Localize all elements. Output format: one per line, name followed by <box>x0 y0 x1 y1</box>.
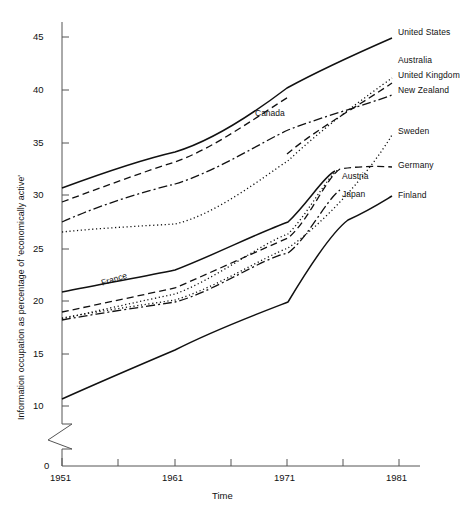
series-label-japan: Japan <box>342 189 365 199</box>
y-tick-label-10: 10 <box>33 400 44 411</box>
y-axis-break-zigzag <box>48 424 72 466</box>
y-tick-label-25: 25 <box>33 243 44 254</box>
series-line-united-kingdom <box>287 83 392 154</box>
plot-area <box>0 0 467 516</box>
y-tick-label-20: 20 <box>33 295 44 306</box>
y-tick-label-45: 45 <box>33 31 44 42</box>
y-tick-label-35: 35 <box>33 137 44 148</box>
series-line-united-states <box>62 38 392 188</box>
series-label-finland: Finland <box>398 190 427 200</box>
series-label-austria: Austria <box>342 171 368 181</box>
y-tick-label-30: 30 <box>33 189 44 200</box>
x-tick-label-1971: 1971 <box>274 472 295 483</box>
y-tick-label-15: 15 <box>33 348 44 359</box>
series-label-united-kingdom: United Kingdom <box>398 70 460 80</box>
x-tick-label-1951: 1951 <box>50 472 71 483</box>
line-chart: Information occupation as percentage of … <box>0 0 467 516</box>
y-tick-label-40: 40 <box>33 84 44 95</box>
series-label-united-states: United States <box>398 27 450 37</box>
x-axis-title: Time <box>212 490 233 501</box>
series-label-sweden: Sweden <box>398 126 429 136</box>
series-line-australia <box>62 78 392 232</box>
y-tick-label-0: 0 <box>44 460 49 471</box>
y-axis-title: Information occupation as percentage of … <box>16 175 26 420</box>
series-label-australia: Australia <box>398 55 432 65</box>
series-label-canada: Canada <box>255 108 285 118</box>
series-label-new-zealand: New Zealand <box>398 85 449 95</box>
series-lines <box>62 38 392 399</box>
x-tick-label-1961: 1961 <box>162 472 183 483</box>
x-tick-label-1981: 1981 <box>386 472 407 483</box>
series-line-finland <box>62 196 392 399</box>
series-label-germany: Germany <box>398 160 434 170</box>
axes <box>48 22 420 466</box>
series-line-japan <box>62 190 340 320</box>
series-line-new-zealand <box>62 95 392 222</box>
